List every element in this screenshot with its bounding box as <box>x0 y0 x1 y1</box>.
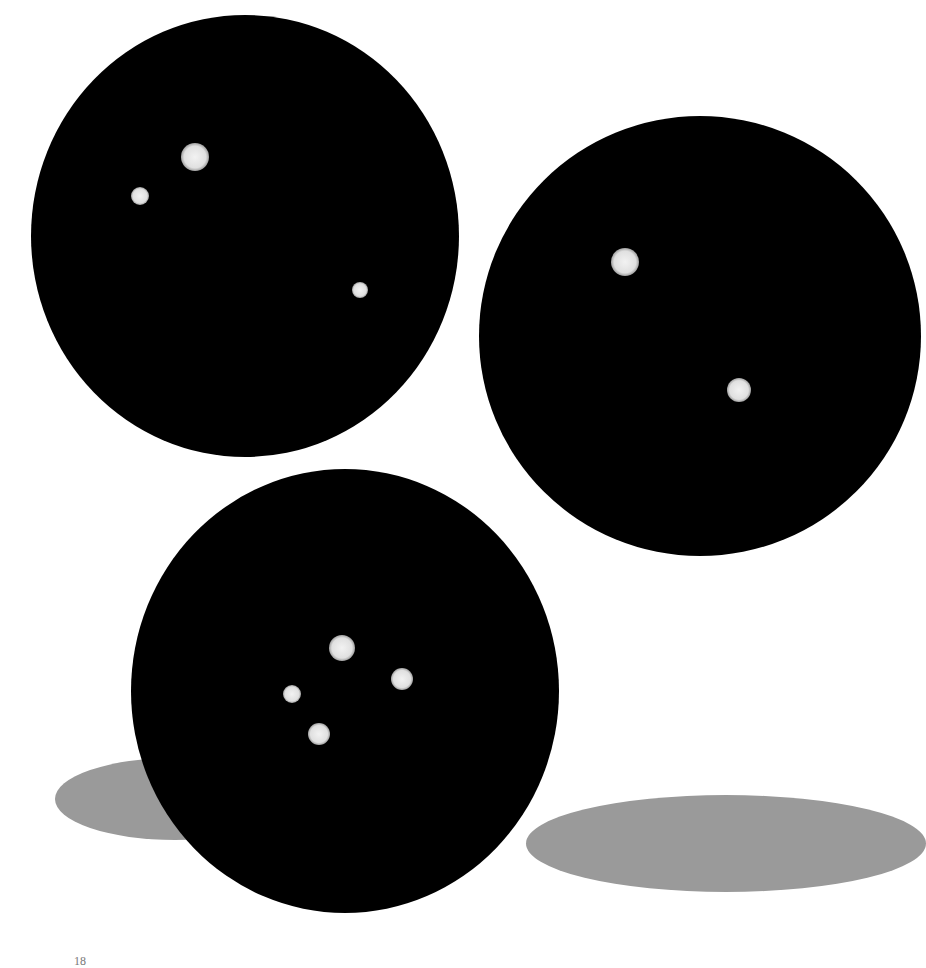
star-dot <box>611 248 639 276</box>
star-dot <box>308 723 330 745</box>
star-dot <box>727 378 751 402</box>
star-dot <box>131 187 149 205</box>
shadow-right <box>526 795 926 892</box>
star-dot <box>181 143 209 171</box>
star-dot <box>391 668 413 690</box>
page-number: 18 <box>74 955 86 967</box>
star-dot <box>329 635 355 661</box>
disc-top-left <box>31 15 459 457</box>
disc-bottom <box>131 469 559 913</box>
star-dot <box>283 685 301 703</box>
star-dot <box>352 282 368 298</box>
disc-right <box>479 116 921 556</box>
